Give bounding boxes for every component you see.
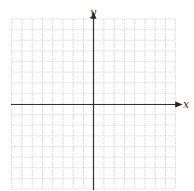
coordinate-grid: x y bbox=[0, 0, 194, 191]
y-axis-label: y bbox=[89, 6, 97, 19]
x-axis-label: x bbox=[183, 98, 190, 111]
